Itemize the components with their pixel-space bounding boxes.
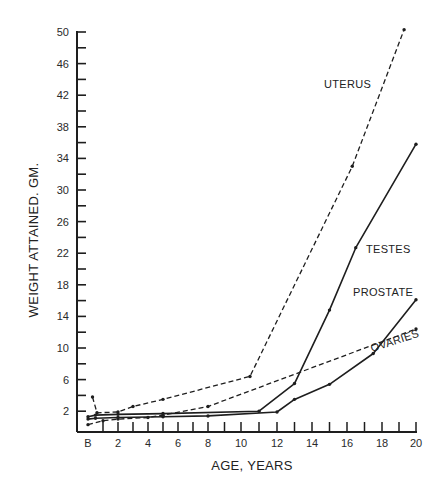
y-tick-label: 2 xyxy=(63,405,69,417)
series-label-ovaries: OVARIES xyxy=(369,327,420,354)
x-tick-label: 10 xyxy=(235,437,247,449)
x-axis-title: AGE, YEARS xyxy=(211,458,293,473)
data-point-ovaries xyxy=(86,423,89,426)
series-label-uterus: UTERUS xyxy=(324,78,371,90)
data-point-uterus xyxy=(131,405,134,408)
x-tick-label: 4 xyxy=(145,437,151,449)
data-point-ovaries xyxy=(101,419,104,422)
data-point-prostate xyxy=(293,398,296,401)
data-point-uterus xyxy=(248,375,251,378)
data-point-testes xyxy=(94,413,97,416)
data-point-uterus xyxy=(161,398,164,401)
data-point-prostate xyxy=(94,417,97,420)
y-tick-label: 34 xyxy=(57,152,69,164)
x-tick-label: B xyxy=(84,437,91,449)
data-point-uterus xyxy=(91,395,94,398)
data-point-prostate xyxy=(328,383,331,386)
data-point-ovaries xyxy=(116,417,119,420)
series-label-prostate: PROSTATE xyxy=(353,286,413,298)
data-point-testes xyxy=(414,142,417,145)
x-tick-label: 12 xyxy=(271,437,283,449)
data-point-prostate xyxy=(86,417,89,420)
x-tick-label: 20 xyxy=(410,437,422,449)
labels-layer: WEIGHT ATTAINED. GM. AGE, YEARS UTERUS T… xyxy=(26,78,420,473)
y-tick-label: 18 xyxy=(57,279,69,291)
series-label-testes: TESTES xyxy=(366,243,411,255)
y-tick-label: 42 xyxy=(57,89,69,101)
y-tick-label: 46 xyxy=(57,58,69,70)
data-point-ovaries xyxy=(161,413,164,416)
y-axis-title: WEIGHT ATTAINED. GM. xyxy=(26,163,41,318)
data-point-testes xyxy=(293,382,296,385)
data-point-testes xyxy=(116,413,119,416)
data-point-testes xyxy=(328,308,331,311)
y-tick-label: 14 xyxy=(57,310,69,322)
y-tick-label: 38 xyxy=(57,121,69,133)
series-line-ovaries xyxy=(88,329,416,425)
x-tick-label: 18 xyxy=(376,437,388,449)
data-point-testes xyxy=(354,246,357,249)
data-point-prostate xyxy=(275,410,278,413)
y-tick-label: 6 xyxy=(63,374,69,386)
x-tick-label: 16 xyxy=(341,437,353,449)
data-point-ovaries xyxy=(146,416,149,419)
x-tick-label: 8 xyxy=(205,437,211,449)
data-point-prostate xyxy=(206,414,209,417)
y-tick-label: 26 xyxy=(57,216,69,228)
data-point-uterus xyxy=(402,28,405,31)
x-tick-label: 6 xyxy=(175,437,181,449)
series-line-prostate xyxy=(88,300,416,419)
y-tick-label: 22 xyxy=(57,247,69,259)
data-point-uterus xyxy=(351,165,354,168)
chart: 261014182226303438424650B246810121416182… xyxy=(0,0,445,496)
y-tick-label: 50 xyxy=(57,26,69,38)
x-tick-label: 14 xyxy=(306,437,318,449)
data-point-ovaries xyxy=(206,405,209,408)
data-point-prostate xyxy=(414,298,417,301)
y-tick-label: 10 xyxy=(57,342,69,354)
y-tick-label: 30 xyxy=(57,184,69,196)
x-tick-label: 2 xyxy=(115,437,121,449)
series-line-testes xyxy=(88,144,416,417)
